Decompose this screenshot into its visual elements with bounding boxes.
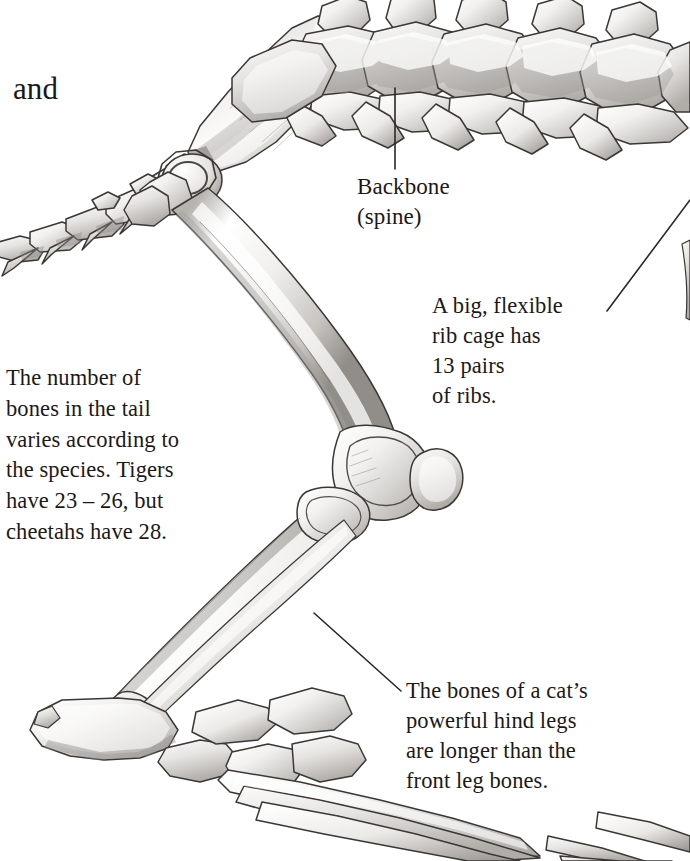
lumbar-thoracic-vertebrae [286, 0, 690, 160]
hindleg-leader-line [314, 613, 401, 691]
tarsals [158, 688, 366, 788]
annotation-hind-legs: The bones of a cat’s powerful hind legs … [406, 676, 588, 796]
ribcage-leader-line [607, 200, 690, 311]
phalanges [546, 812, 690, 861]
annotation-tail-bones: The number of bones in the tail varies a… [6, 363, 179, 548]
calcaneus-hock [30, 698, 178, 760]
annotation-ribcage: A big, flexible rib cage has 13 pairs of… [432, 291, 563, 411]
stray-word-and: and [13, 72, 58, 106]
femur [172, 188, 463, 520]
anatomy-page: and Backbone (spine) A big, flexible rib… [0, 0, 690, 861]
rib [682, 240, 690, 320]
annotation-backbone: Backbone (spine) [357, 172, 450, 232]
